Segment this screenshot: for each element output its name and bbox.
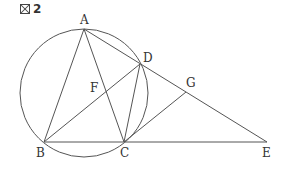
point-label-d: D xyxy=(143,51,153,65)
point-label-f: F xyxy=(90,81,98,95)
segment-ab xyxy=(44,29,84,142)
point-label-c: C xyxy=(120,146,129,160)
point-label-g: G xyxy=(186,76,196,90)
geometry-diagram: ABCDEFG xyxy=(0,0,287,171)
segment-cg xyxy=(124,92,186,142)
point-label-a: A xyxy=(79,13,89,27)
segment-bd xyxy=(44,64,140,142)
point-label-b: B xyxy=(36,146,45,160)
segment-ae xyxy=(84,29,267,142)
segment-cd xyxy=(124,64,140,142)
point-label-e: E xyxy=(262,146,271,160)
